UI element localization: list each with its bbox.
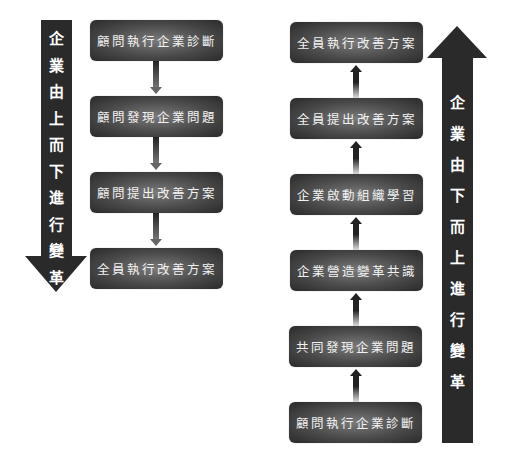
label-char: 上 (49, 106, 64, 133)
connector-arrow-head (150, 87, 162, 94)
label-char: 而 (49, 132, 64, 159)
connector-arrow-head (350, 217, 362, 224)
connector-arrow-head (350, 293, 362, 300)
connector-arrow-head (150, 239, 162, 246)
step-label: 顧問提出改善方案 (97, 183, 217, 202)
step-label: 企業營造變革共識 (297, 261, 417, 280)
bottom-up-arrow-head (427, 26, 487, 58)
step-label: 顧問執行企業診斷 (97, 31, 217, 50)
left-step-1: 顧問執行企業診斷 (90, 20, 223, 61)
step-label: 顧問執行企業診斷 (296, 413, 416, 432)
connector-arrow (153, 213, 159, 240)
right-step-6: 全員執行改善方案 (290, 22, 423, 63)
label-char: 行 (49, 212, 64, 239)
step-label: 全員執行改善方案 (297, 33, 417, 52)
label-char: 由 (49, 79, 64, 106)
connector-arrow-head (350, 65, 362, 72)
connector-arrow (153, 137, 159, 164)
step-label: 全員執行改善方案 (97, 259, 217, 278)
label-char: 業 (49, 53, 64, 80)
left-step-2: 顧問發現企業問題 (90, 96, 223, 137)
left-step-3: 顧問提出改善方案 (90, 172, 223, 213)
connector-arrow (353, 376, 359, 402)
right-step-2: 共同發現企業問題 (289, 326, 422, 367)
connector-arrow-head (150, 163, 162, 170)
connector-arrow (353, 72, 359, 98)
step-label: 企業啟動組織學習 (297, 185, 417, 204)
label-char: 下 (450, 181, 465, 212)
connector-arrow-head (350, 141, 362, 148)
step-label: 全員提出改善方案 (297, 109, 417, 128)
label-char: 變 (49, 238, 64, 265)
label-char: 由 (450, 150, 465, 181)
label-char: 變 (450, 336, 465, 367)
label-char: 下 (49, 159, 64, 186)
bottom-up-arrow-label: 企 業 由 下 而 上 進 行 變 革 (442, 88, 473, 398)
step-label: 共同發現企業問題 (296, 337, 416, 356)
step-label: 顧問發現企業問題 (97, 107, 217, 126)
label-char: 進 (450, 274, 465, 305)
label-char: 企 (450, 88, 465, 119)
left-step-4: 全員執行改善方案 (90, 248, 223, 289)
right-step-1: 顧問執行企業診斷 (289, 402, 422, 443)
label-char: 進 (49, 185, 64, 212)
connector-arrow (353, 148, 359, 174)
label-char: 業 (450, 119, 465, 150)
label-char: 革 (49, 265, 64, 292)
right-step-4: 企業啟動組織學習 (290, 174, 423, 215)
connector-arrow (353, 224, 359, 250)
connector-arrow-head (350, 369, 362, 376)
label-char: 行 (450, 305, 465, 336)
right-step-3: 企業營造變革共識 (290, 250, 423, 291)
label-char: 而 (450, 212, 465, 243)
label-char: 上 (450, 243, 465, 274)
connector-arrow (353, 300, 359, 326)
top-down-arrow-label: 企 業 由 上 而 下 進 行 變 革 (41, 26, 72, 291)
right-step-5: 全員提出改善方案 (290, 98, 423, 139)
label-char: 革 (450, 367, 465, 398)
connector-arrow (153, 61, 159, 88)
label-char: 企 (49, 26, 64, 53)
